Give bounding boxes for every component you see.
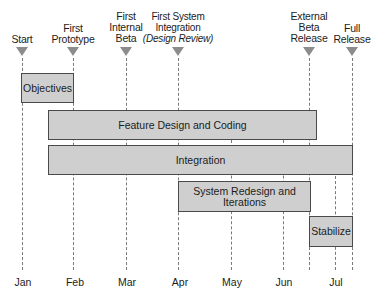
milestone-label-first-system-integration: First System Integration (Design Review) — [143, 11, 213, 44]
milestone-text: Start — [11, 34, 32, 45]
task-bar-stabilize: Stabilize — [309, 216, 353, 247]
milestone-text: Prototype — [51, 34, 94, 45]
task-label: System Redesign and — [193, 186, 296, 197]
milestone-text: Integration — [143, 22, 213, 33]
milestone-marker-icon — [303, 47, 315, 56]
milestone-marker-icon — [67, 47, 79, 56]
month-label-jun: Jun — [276, 276, 293, 288]
task-label: Stabilize — [311, 226, 351, 237]
milestone-text: Release — [333, 34, 370, 45]
milestone-marker-icon — [172, 47, 184, 56]
project-timeline-diagram: Start First Prototype First Internal Bet… — [0, 0, 381, 299]
milestone-marker-icon — [120, 47, 132, 56]
month-label-may: May — [222, 276, 242, 288]
milestone-text: Beta — [109, 33, 142, 44]
milestone-label-first-prototype: First Prototype — [51, 23, 94, 45]
month-label-jan: Jan — [15, 276, 32, 288]
task-label: Feature Design and Coding — [118, 120, 246, 131]
task-label: Integration — [176, 155, 226, 166]
month-label-apr: Apr — [172, 276, 188, 288]
milestone-marker-icon — [346, 47, 358, 56]
milestone-text: (Design Review) — [143, 33, 213, 44]
month-label-jul: Jul — [329, 276, 342, 288]
milestone-label-full-release: Full Release — [333, 23, 370, 45]
task-bar-objectives: Objectives — [21, 73, 74, 103]
milestone-marker-icon — [16, 47, 28, 56]
task-label: Iterations — [223, 197, 266, 208]
month-label-mar: Mar — [118, 276, 136, 288]
task-bar-system-redesign-and-iterations: System Redesign and Iterations — [178, 181, 311, 212]
milestone-text: First System — [143, 11, 213, 22]
task-bar-feature-design-and-coding: Feature Design and Coding — [48, 110, 317, 140]
milestone-text: Release — [290, 33, 327, 44]
task-label: Objectives — [23, 83, 72, 94]
milestone-label-start: Start — [11, 34, 32, 45]
month-label-feb: Feb — [66, 276, 84, 288]
milestone-label-first-internal-beta: First Internal Beta — [109, 11, 142, 44]
milestone-label-external-beta-release: External Beta Release — [290, 11, 327, 44]
task-bar-integration: Integration — [48, 145, 353, 175]
